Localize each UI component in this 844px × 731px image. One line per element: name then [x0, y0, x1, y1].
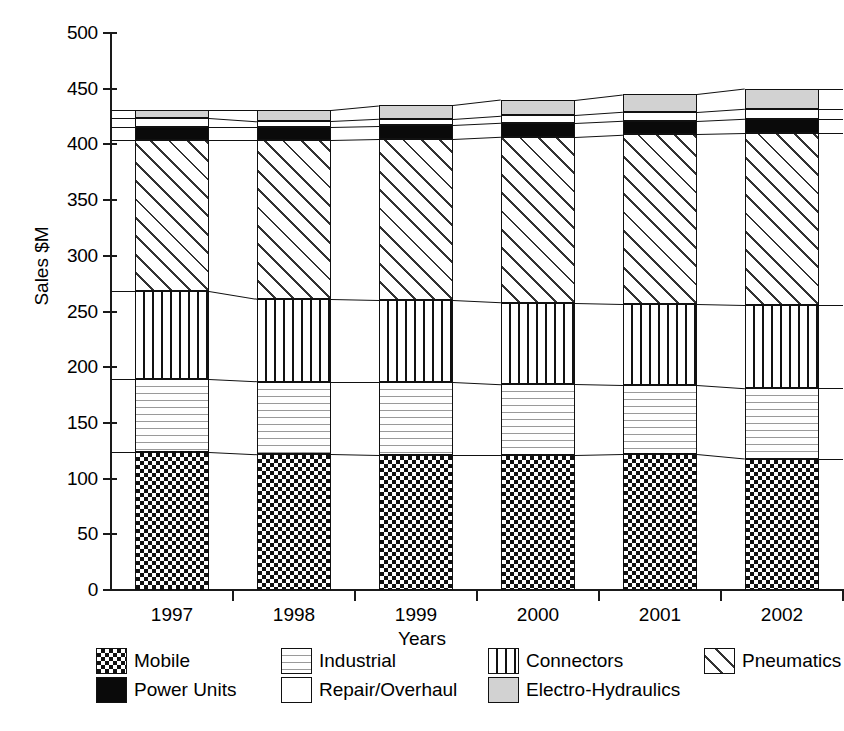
legend-item-connectors[interactable]: Connectors	[488, 648, 623, 674]
segment-electro-hydraulics-1997	[135, 110, 209, 118]
segment-power-units-1998	[257, 127, 331, 140]
stacked-bar-chart: 050100150200250300350400450500 Sales $M …	[0, 0, 844, 731]
segment-industrial-2000	[501, 384, 575, 455]
segment-industrial-2001	[623, 385, 697, 454]
tie-stub-right-6	[819, 89, 843, 90]
legend-label-mobile: Mobile	[134, 651, 190, 671]
tie-stub-right-1	[819, 388, 843, 389]
segment-connectors-2001	[623, 304, 697, 385]
tie-line-pneumatics-1997	[209, 140, 257, 141]
segment-industrial-1997	[135, 379, 209, 451]
legend-item-mobile[interactable]: Mobile	[96, 648, 190, 674]
segment-connectors-2000	[501, 303, 575, 384]
tie-stub-left-1	[111, 379, 135, 380]
tie-line-industrial-1998	[331, 382, 379, 383]
segment-pneumatics-1997	[135, 140, 209, 292]
segment-connectors-1998	[257, 299, 331, 381]
legend-row-top: Mobile Industrial Connectors Pneumatics	[96, 648, 836, 677]
y-tick-label-450: 450	[46, 79, 98, 98]
segment-electro-hydraulics-1998	[257, 110, 331, 121]
segment-electro-hydraulics-1999	[379, 105, 453, 118]
segment-pneumatics-1999	[379, 139, 453, 301]
tie-stub-left-6	[111, 110, 135, 111]
legend-label-pneumatics: Pneumatics	[742, 651, 841, 671]
legend-label-repair-overhaul: Repair/Overhaul	[319, 680, 457, 700]
y-tick-label-100: 100	[46, 469, 98, 488]
y-tick-label-250: 250	[46, 302, 98, 321]
x-tick-2001	[720, 589, 722, 601]
segment-mobile-2002	[745, 459, 819, 590]
segment-industrial-1999	[379, 382, 453, 456]
legend-swatch-repair-overhaul-icon	[281, 677, 312, 703]
legend-swatch-connectors-icon	[488, 648, 519, 674]
tie-stub-right-4	[819, 119, 843, 120]
segment-connectors-1997	[135, 291, 209, 379]
x-label-2000: 2000	[478, 604, 598, 626]
segment-electro-hydraulics-2001	[623, 94, 697, 112]
tie-stub-left-2	[111, 291, 135, 292]
x-tick-2000	[598, 589, 600, 601]
legend-swatch-mobile-icon	[96, 648, 127, 674]
segment-industrial-1998	[257, 382, 331, 454]
x-axis-title: Years	[0, 628, 844, 650]
segment-electro-hydraulics-2000	[501, 100, 575, 116]
y-tick-label-50: 50	[46, 524, 98, 543]
x-label-1999: 1999	[356, 604, 476, 626]
legend-item-power-units[interactable]: Power Units	[96, 677, 236, 703]
legend-item-pneumatics[interactable]: Pneumatics	[704, 648, 841, 674]
x-tick-1997	[232, 589, 234, 601]
tie-stub-right-2	[819, 305, 843, 306]
y-tick-label-200: 200	[46, 357, 98, 376]
legend-label-industrial: Industrial	[319, 651, 396, 671]
x-label-1998: 1998	[234, 604, 354, 626]
y-tick-label-300: 300	[46, 246, 98, 265]
segment-power-units-1999	[379, 125, 453, 138]
tie-line-mobile-1999	[453, 455, 501, 456]
segment-mobile-1999	[379, 455, 453, 590]
tie-stub-left-5	[111, 118, 135, 119]
x-label-2002: 2002	[722, 604, 842, 626]
legend-swatch-power-units-icon	[96, 677, 127, 703]
segment-pneumatics-1998	[257, 140, 331, 299]
bar-2002	[745, 33, 819, 590]
y-tick-label-150: 150	[46, 413, 98, 432]
bar-1997	[135, 33, 209, 590]
segment-pneumatics-2002	[745, 133, 819, 305]
segment-connectors-1999	[379, 300, 453, 381]
x-label-2001: 2001	[600, 604, 720, 626]
segment-pneumatics-2000	[501, 137, 575, 303]
legend-label-connectors: Connectors	[526, 651, 623, 671]
y-tick-label-400: 400	[46, 134, 98, 153]
segment-mobile-1997	[135, 452, 209, 590]
legend-swatch-industrial-icon	[281, 648, 312, 674]
y-axis-title: Sales $M	[31, 186, 53, 346]
segment-mobile-2000	[501, 455, 575, 590]
segment-repair-overhaul-1998	[257, 121, 331, 127]
segment-pneumatics-2001	[623, 134, 697, 303]
y-tick-label-350: 350	[46, 190, 98, 209]
legend-label-power-units: Power Units	[134, 680, 236, 700]
tie-stub-right-5	[819, 109, 843, 110]
legend-label-electro-hydraulics: Electro-Hydraulics	[526, 680, 680, 700]
segment-repair-overhaul-2001	[623, 112, 697, 121]
bar-2001	[623, 33, 697, 590]
segment-industrial-2002	[745, 388, 819, 458]
segment-repair-overhaul-1999	[379, 119, 453, 126]
y-tick-label-500: 500	[46, 23, 98, 42]
tie-line-power-units-1997	[209, 127, 257, 128]
x-tick-1998	[354, 589, 356, 601]
tie-stub-right-0	[819, 459, 843, 460]
segment-connectors-2002	[745, 305, 819, 389]
legend-item-repair-overhaul[interactable]: Repair/Overhaul	[281, 677, 457, 703]
tie-stub-left-3	[111, 140, 135, 141]
y-tick-label-0: 0	[46, 580, 98, 599]
tie-stub-left-0	[111, 452, 135, 453]
segment-repair-overhaul-1997	[135, 118, 209, 127]
legend-item-electro-hydraulics[interactable]: Electro-Hydraulics	[488, 677, 680, 703]
bar-1999	[379, 33, 453, 590]
legend-swatch-electro-hydraulics-icon	[488, 677, 519, 703]
legend-item-industrial[interactable]: Industrial	[281, 648, 396, 674]
segment-repair-overhaul-2000	[501, 115, 575, 123]
segment-repair-overhaul-2002	[745, 109, 819, 119]
segment-mobile-2001	[623, 454, 697, 590]
